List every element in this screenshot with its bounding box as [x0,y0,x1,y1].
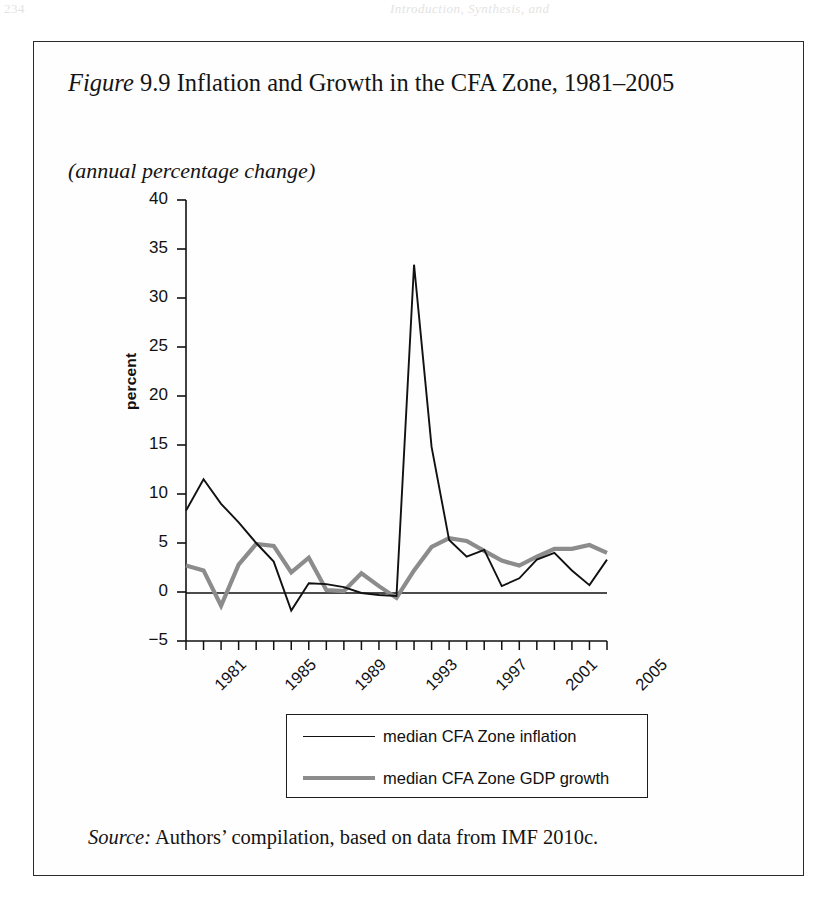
x-axis-ticks [186,641,607,650]
y-axis-tick-label: 35 [128,238,168,258]
chart-series [186,265,607,611]
chart-legend: median CFA Zone inflation median CFA Zon… [286,714,648,798]
source-label: Source: [88,826,151,848]
chart-axes [186,200,607,641]
y-axis-tick-label: 15 [128,434,168,454]
y-axis-tick-label: 25 [128,336,168,356]
legend-swatch-inflation [303,736,375,737]
legend-item-gdp-growth: median CFA Zone GDP growth [287,757,647,799]
series-line-inflation [186,265,607,611]
page-bleed-text: 234 Introduction, Synthesis, and [0,0,839,22]
y-axis-tick-label: −5 [128,630,168,650]
y-axis-tick-label: 0 [128,581,168,601]
legend-label-inflation: median CFA Zone inflation [383,727,577,746]
y-axis-ticks [177,200,186,641]
y-axis-tick-label: 20 [128,385,168,405]
figure-frame: Figure 9.9 Inflation and Growth in the C… [33,41,804,876]
figure-source: Source: Authors’ compilation, based on d… [88,826,598,849]
running-head-bleed: Introduction, Synthesis, and [390,1,549,17]
legend-item-inflation: median CFA Zone inflation [287,715,647,757]
legend-swatch-gdp-growth [303,776,375,780]
page-number-bleed: 234 [4,1,25,17]
y-axis-tick-label: 40 [128,189,168,209]
legend-label-gdp-growth: median CFA Zone GDP growth [383,769,609,788]
y-axis-tick-label: 5 [128,532,168,552]
y-axis-tick-label: 10 [128,483,168,503]
y-axis-tick-label: 30 [128,287,168,307]
source-text: Authors’ compilation, based on data from… [151,826,598,848]
